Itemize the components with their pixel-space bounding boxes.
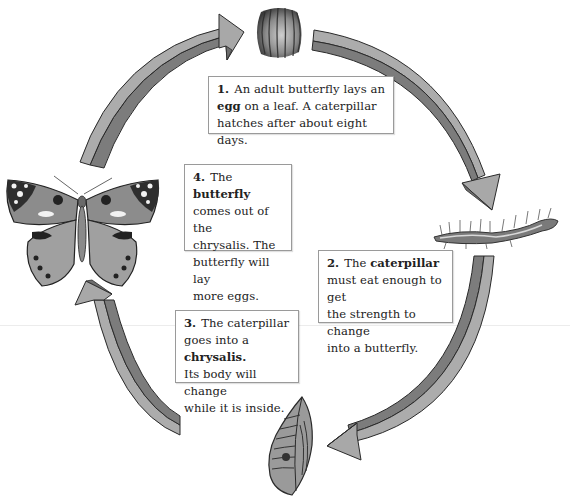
caterpillar-illustration [430, 205, 562, 250]
arrow-chrysalis-to-butterfly-icon [75, 280, 180, 435]
stage-number: 1. [217, 82, 229, 96]
keyword-egg: egg [217, 99, 241, 113]
stage-number: 2. [327, 256, 339, 270]
keyword-butterfly: butterfly [193, 187, 250, 201]
egg-illustration [253, 4, 305, 62]
life-cycle-diagram: 1.An adult butterfly lays an egg on a le… [0, 0, 570, 496]
stage-2-caterpillar-description: 2.The caterpillar must eat enough to get… [318, 250, 453, 323]
keyword-caterpillar: caterpillar [370, 256, 439, 270]
stage-number: 4. [193, 170, 205, 184]
stage-number: 3. [184, 316, 196, 330]
butterfly-illustration [2, 172, 162, 290]
keyword-chrysalis: chrysalis. [184, 350, 246, 364]
stage-3-chrysalis-description: 3.The caterpillar goes into a chrysalis.… [175, 310, 299, 383]
stage-1-egg-description: 1.An adult butterfly lays an egg on a le… [208, 76, 394, 134]
stage-4-butterfly-description: 4.The butterfly comes out of the chrysal… [184, 164, 292, 251]
